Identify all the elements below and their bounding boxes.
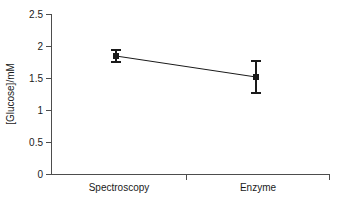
glucose-line-chart: 2.5 2 1.5 1 0.5 0 Spectroscopy Enzyme [G…	[0, 0, 339, 202]
y-tick-label-2: 2	[37, 41, 43, 52]
y-tick-label-2.5: 2.5	[29, 9, 43, 20]
y-tick-label-1.5: 1.5	[29, 73, 43, 84]
x-category-label-spectroscopy: Spectroscopy	[89, 182, 150, 193]
data-point-spectroscopy	[113, 53, 119, 59]
y-tick-label-0: 0	[37, 169, 43, 180]
y-tick-label-0.5: 0.5	[29, 137, 43, 148]
chart-canvas: 2.5 2 1.5 1 0.5 0 Spectroscopy Enzyme [G…	[0, 0, 339, 202]
y-axis-title: [Glucose]/mM	[5, 63, 16, 125]
y-tick-label-1: 1	[37, 105, 43, 116]
x-category-label-enzyme: Enzyme	[240, 182, 277, 193]
data-point-enzyme	[253, 74, 259, 80]
chart-background	[0, 0, 339, 202]
